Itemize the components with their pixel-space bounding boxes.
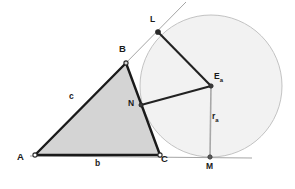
point-marker-B bbox=[124, 61, 128, 65]
point-label-Ea: Ea bbox=[214, 72, 223, 83]
segment-label-side-c: c bbox=[69, 92, 74, 101]
segment-label-side-b: b bbox=[95, 159, 100, 168]
segment-label-radius-a: ra bbox=[212, 112, 219, 123]
point-marker-L bbox=[156, 30, 161, 35]
point-label-L: L bbox=[150, 15, 155, 24]
geometry-canvas bbox=[0, 0, 295, 189]
point-label-A: A bbox=[17, 152, 24, 162]
point-marker-N bbox=[139, 103, 143, 107]
point-label-Ea-subscript: a bbox=[220, 77, 223, 83]
point-label-B: B bbox=[119, 44, 126, 54]
geometry-figure: A B C L N M Ea ra b c bbox=[0, 0, 295, 189]
point-label-C: C bbox=[161, 154, 168, 164]
point-marker-M bbox=[208, 155, 212, 159]
point-label-M: M bbox=[206, 162, 213, 171]
radius-segment-Ea-M bbox=[210, 86, 211, 157]
segment-label-radius-subscript: a bbox=[215, 117, 218, 123]
point-marker-Ea bbox=[209, 84, 213, 88]
point-marker-A bbox=[33, 153, 37, 157]
point-label-N: N bbox=[128, 99, 134, 108]
